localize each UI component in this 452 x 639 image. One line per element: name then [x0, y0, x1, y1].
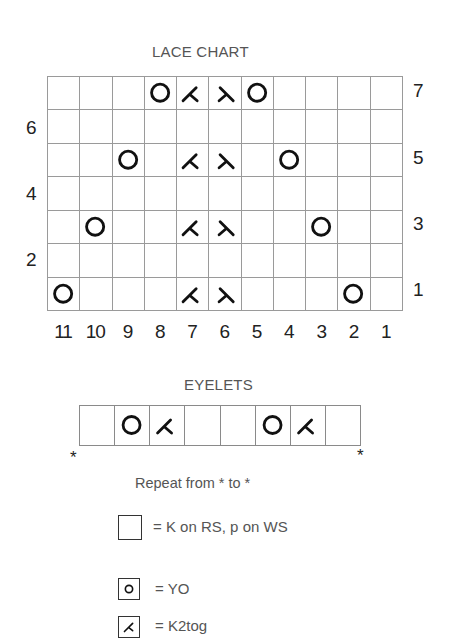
k2tog-icon — [290, 409, 325, 441]
eyelet-cell-7 — [290, 405, 326, 446]
chart-cell-row2-st2 — [337, 243, 370, 277]
chart-cell-row5-st5 — [241, 143, 274, 177]
chart-cell-row4-st2 — [337, 176, 370, 210]
chart-cell-row1-st4 — [273, 277, 306, 311]
chart-cell-row3-st9 — [112, 210, 145, 244]
lace-chart-grid — [47, 76, 402, 310]
chart-cell-row3-st2 — [337, 210, 370, 244]
chart-cell-row4-st7 — [176, 176, 209, 210]
chart-cell-row6-st6 — [208, 109, 241, 143]
chart-cell-row6-st7 — [176, 109, 209, 143]
yarn-over-icon — [144, 76, 176, 109]
yarn-over-icon — [273, 143, 305, 176]
column-label-5: 5 — [241, 321, 273, 343]
chart-cell-row4-st8 — [144, 176, 177, 210]
column-label-2: 2 — [337, 321, 369, 343]
yarn-over-icon — [112, 143, 144, 176]
chart-cell-row4-st5 — [241, 176, 274, 210]
chart-cell-row3-st11 — [47, 210, 80, 244]
chart-cell-row5-st4 — [273, 143, 306, 177]
chart-cell-row7-st6 — [208, 76, 241, 110]
legend-text-yo: = YO — [155, 580, 189, 597]
circle-icon — [118, 578, 140, 600]
chart-cell-row4-st3 — [305, 176, 338, 210]
chart-cell-row6-st9 — [112, 109, 145, 143]
k2tog-icon — [118, 616, 140, 638]
ssk-icon — [208, 76, 240, 109]
chart-cell-row5-st7 — [176, 143, 209, 177]
chart-cell-row1-st6 — [208, 277, 241, 311]
chart-cell-row7-st11 — [47, 76, 80, 110]
row-label-2: 2 — [26, 249, 37, 271]
chart-cell-row4-st9 — [112, 176, 145, 210]
repeat-marker-left: * — [70, 448, 77, 468]
eyelet-cell-4 — [184, 405, 220, 446]
chart-cell-row6-st1 — [370, 109, 403, 143]
k2tog-icon — [176, 143, 208, 176]
chart-cell-row2-st10 — [79, 243, 112, 277]
column-label-9: 9 — [112, 321, 144, 343]
chart-cell-row2-st5 — [241, 243, 274, 277]
chart-cell-row1-st11 — [47, 277, 80, 311]
repeat-marker-right: * — [357, 446, 364, 466]
yarn-over-icon — [241, 76, 273, 109]
chart-cell-row4-st11 — [47, 176, 80, 210]
row-label-3: 3 — [413, 213, 424, 235]
k2tog-icon — [149, 409, 184, 441]
eyelet-cell-2 — [114, 405, 150, 446]
yarn-over-icon — [337, 277, 369, 310]
chart-cell-row5-st1 — [370, 143, 403, 177]
column-label-1: 1 — [370, 321, 402, 343]
yarn-over-icon — [79, 210, 111, 243]
chart-cell-row7-st9 — [112, 76, 145, 110]
eyelet-cell-1 — [79, 405, 115, 446]
chart-cell-row1-st1 — [370, 277, 403, 311]
k2tog-icon — [176, 277, 208, 310]
chart-cell-row2-st4 — [273, 243, 306, 277]
chart-cell-row1-st2 — [337, 277, 370, 311]
chart-cell-row2-st8 — [144, 243, 177, 277]
chart-cell-row1-st10 — [79, 277, 112, 311]
chart-cell-row4-st4 — [273, 176, 306, 210]
yarn-over-icon — [114, 409, 149, 441]
chart-cell-row6-st4 — [273, 109, 306, 143]
chart-cell-row1-st7 — [176, 277, 209, 311]
legend-text-k2tog: = K2tog — [155, 617, 207, 634]
chart-cell-row1-st9 — [112, 277, 145, 311]
chart-cell-row1-st8 — [144, 277, 177, 311]
column-label-3: 3 — [305, 321, 337, 343]
chart-cell-row7-st7 — [176, 76, 209, 110]
chart-cell-row4-st6 — [208, 176, 241, 210]
chart-cell-row1-st3 — [305, 277, 338, 311]
column-label-11: 11 — [47, 321, 79, 343]
chart-cell-row7-st5 — [241, 76, 274, 110]
column-label-4: 4 — [273, 321, 305, 343]
chart-cell-row2-st1 — [370, 243, 403, 277]
chart-cell-row5-st3 — [305, 143, 338, 177]
chart-cell-row4-st1 — [370, 176, 403, 210]
eyelet-cell-6 — [255, 405, 291, 446]
repeat-note: Repeat from * to * — [135, 475, 250, 491]
chart-cell-row3-st1 — [370, 210, 403, 244]
chart-cell-row1-st5 — [241, 277, 274, 311]
column-label-6: 6 — [208, 321, 240, 343]
chart-cell-row7-st4 — [273, 76, 306, 110]
chart-cell-row3-st6 — [208, 210, 241, 244]
legend-text-knit: = K on RS, p on WS — [153, 518, 288, 535]
chart-cell-row6-st2 — [337, 109, 370, 143]
yarn-over-icon — [255, 409, 290, 441]
eyelets-title: EYELETS — [184, 376, 253, 393]
eyelet-cell-8 — [325, 405, 361, 446]
chart-cell-row5-st9 — [112, 143, 145, 177]
ssk-icon — [208, 143, 240, 176]
yarn-over-icon — [47, 277, 79, 310]
chart-cell-row3-st3 — [305, 210, 338, 244]
row-label-5: 5 — [413, 147, 424, 169]
column-label-10: 10 — [79, 321, 111, 343]
row-label-6: 6 — [26, 117, 37, 139]
row-label-7: 7 — [413, 80, 424, 102]
eyelets-strip — [79, 405, 360, 445]
chart-cell-row7-st3 — [305, 76, 338, 110]
eyelet-cell-3 — [149, 405, 185, 446]
chart-cell-row7-st10 — [79, 76, 112, 110]
